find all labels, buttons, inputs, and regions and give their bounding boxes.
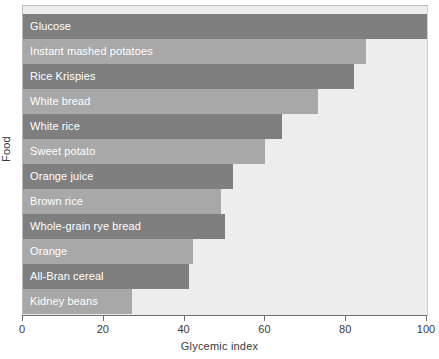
bar-label: Sweet potato xyxy=(30,139,95,164)
x-axis-tick-label: 60 xyxy=(244,323,284,335)
x-axis-tick-label: 80 xyxy=(325,323,365,335)
x-axis-tick-label: 100 xyxy=(406,323,439,335)
bar-row: Glucose xyxy=(23,14,427,39)
x-axis-tick-label: 20 xyxy=(83,323,123,335)
bar-row: Rice Krispies xyxy=(23,64,427,89)
bar-label: Glucose xyxy=(30,14,71,39)
bar-label: Kidney beans xyxy=(30,289,98,314)
x-axis-tick xyxy=(264,316,265,321)
bar-row: Whole-grain rye bread xyxy=(23,214,427,239)
bar-label: Orange xyxy=(30,239,67,264)
bar-row: Brown rice xyxy=(23,189,427,214)
x-axis-tick xyxy=(426,316,427,321)
bar-row: White bread xyxy=(23,89,427,114)
bar-row: Kidney beans xyxy=(23,289,427,314)
bar-label: White rice xyxy=(30,114,80,139)
x-axis-tick-label: 0 xyxy=(2,323,42,335)
x-axis-tick xyxy=(345,316,346,321)
bar-row: Instant mashed potatoes xyxy=(23,39,427,64)
x-axis-tick xyxy=(103,316,104,321)
bar-row: Orange xyxy=(23,239,427,264)
x-axis-line xyxy=(22,315,427,316)
y-axis-title: Food xyxy=(0,119,12,179)
x-axis-tick xyxy=(22,316,23,321)
plot-area: GlucoseInstant mashed potatoesRice Krisp… xyxy=(22,5,428,316)
bar-row: Orange juice xyxy=(23,164,427,189)
glycemic-index-bar-chart: Food GlucoseInstant mashed potatoesRice … xyxy=(0,0,439,359)
bar-label: Brown rice xyxy=(30,189,83,214)
bar-label: Instant mashed potatoes xyxy=(30,39,153,64)
bar-row: Sweet potato xyxy=(23,139,427,164)
bar xyxy=(23,14,427,39)
bar-label: All-Bran cereal xyxy=(30,264,104,289)
bar-row: All-Bran cereal xyxy=(23,264,427,289)
bar-label: Orange juice xyxy=(30,164,94,189)
x-axis-tick-label: 40 xyxy=(164,323,204,335)
bar-row: White rice xyxy=(23,114,427,139)
x-axis-tick xyxy=(184,316,185,321)
bar-label: Rice Krispies xyxy=(30,64,96,89)
bar-label: Whole-grain rye bread xyxy=(30,214,141,239)
bar-series: GlucoseInstant mashed potatoesRice Krisp… xyxy=(23,14,427,314)
bar-label: White bread xyxy=(30,89,90,114)
x-axis-title: Glycemic index xyxy=(0,340,439,352)
